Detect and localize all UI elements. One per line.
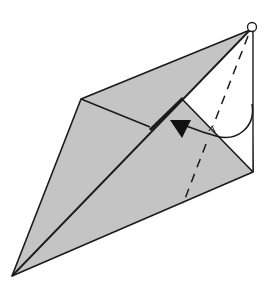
origami-diagram: Kite-shaped folded paper with a flap bei… [0, 0, 269, 293]
pivot-circle-icon [248, 23, 257, 32]
